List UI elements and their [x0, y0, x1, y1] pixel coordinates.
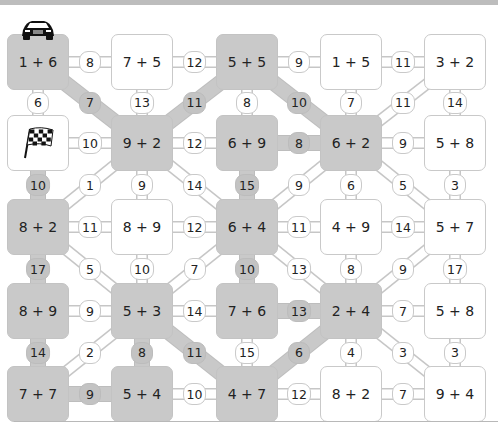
path-number[interactable]: 11 [183, 92, 207, 114]
path-number[interactable]: 7 [392, 300, 414, 322]
path-number[interactable]: 7 [79, 92, 101, 114]
path-number[interactable]: 14 [183, 174, 207, 196]
path-number[interactable]: 15 [235, 174, 259, 196]
equation-box[interactable]: 7 + 7 [7, 366, 69, 422]
equation-box[interactable]: 6 + 9 [216, 115, 278, 171]
path-number[interactable]: 2 [79, 342, 101, 364]
path-number[interactable]: 8 [131, 342, 153, 364]
path-number[interactable]: 14 [183, 300, 207, 322]
equation-label: 8 + 9 [19, 303, 57, 319]
equation-label: 9 + 4 [436, 386, 474, 402]
path-number[interactable]: 11 [183, 342, 207, 364]
path-number[interactable]: 10 [287, 92, 311, 114]
equation-box[interactable]: 7 + 6 [216, 283, 278, 339]
equation-box[interactable]: 6 + 4 [216, 199, 278, 255]
path-number[interactable]: 3 [392, 342, 414, 364]
path-number[interactable]: 10 [26, 174, 50, 196]
path-number[interactable]: 7 [392, 383, 414, 405]
path-number[interactable]: 13 [287, 258, 311, 280]
path-number[interactable]: 9 [79, 383, 101, 405]
path-number[interactable]: 3 [444, 174, 466, 196]
path-number[interactable]: 8 [340, 258, 362, 280]
equation-label: 8 + 2 [19, 219, 57, 235]
path-number[interactable]: 5 [79, 258, 101, 280]
equation-box[interactable]: 8 + 9 [7, 283, 69, 339]
equation-label: 7 + 5 [123, 54, 161, 70]
equation-label: 5 + 4 [123, 386, 161, 402]
equation-box[interactable]: 5 + 8 [424, 283, 486, 339]
equation-box[interactable]: 8 + 9 [111, 199, 173, 255]
equation-box[interactable]: 8 + 2 [320, 366, 382, 422]
equation-box[interactable]: 1 + 6 [7, 34, 69, 90]
equation-box[interactable]: 5 + 3 [111, 283, 173, 339]
path-number[interactable]: 9 [392, 258, 414, 280]
equation-box[interactable]: 3 + 2 [424, 34, 486, 90]
path-number[interactable]: 14 [391, 216, 415, 238]
equation-label: 5 + 7 [436, 219, 474, 235]
equation-label: 5 + 3 [123, 303, 161, 319]
path-number[interactable]: 11 [78, 216, 102, 238]
path-number[interactable]: 17 [443, 258, 467, 280]
equation-box[interactable]: 2 + 4 [320, 283, 382, 339]
path-number[interactable]: 7 [340, 92, 362, 114]
path-number[interactable]: 1 [79, 174, 101, 196]
path-number[interactable]: 10 [78, 132, 102, 154]
path-number[interactable]: 10 [130, 258, 154, 280]
path-number[interactable]: 9 [288, 51, 310, 73]
path-number[interactable]: 9 [131, 174, 153, 196]
path-number[interactable]: 8 [79, 51, 101, 73]
equation-box[interactable]: 5 + 7 [424, 199, 486, 255]
path-number[interactable]: 3 [444, 342, 466, 364]
equation-label: 3 + 2 [436, 54, 474, 70]
equation-label: 1 + 5 [332, 54, 370, 70]
path-number[interactable]: 12 [287, 383, 311, 405]
path-number[interactable]: 11 [287, 216, 311, 238]
path-number[interactable]: 14 [26, 342, 50, 364]
equation-box[interactable]: 5 + 5 [216, 34, 278, 90]
path-number[interactable]: 13 [287, 300, 311, 322]
path-number[interactable]: 7 [184, 258, 206, 280]
equation-box[interactable]: 7 + 5 [111, 34, 173, 90]
path-number[interactable]: 6 [288, 342, 310, 364]
checkered-flag-icon [21, 126, 55, 160]
path-number[interactable]: 13 [130, 92, 154, 114]
path-number[interactable]: 12 [183, 216, 207, 238]
path-number[interactable]: 6 [27, 92, 49, 114]
path-number[interactable]: 10 [235, 258, 259, 280]
race-car-icon [20, 18, 56, 40]
equation-label: 4 + 7 [228, 386, 266, 402]
equation-label: 6 + 2 [332, 135, 370, 151]
path-number[interactable]: 12 [183, 51, 207, 73]
equation-label: 2 + 4 [332, 303, 370, 319]
path-number[interactable]: 14 [443, 92, 467, 114]
path-number[interactable]: 12 [183, 132, 207, 154]
equation-box[interactable]: 8 + 2 [7, 199, 69, 255]
path-number[interactable]: 6 [340, 174, 362, 196]
equation-box[interactable]: 6 + 2 [320, 115, 382, 171]
equation-label: 4 + 9 [332, 219, 370, 235]
equation-box[interactable]: 5 + 4 [111, 366, 173, 422]
path-number[interactable]: 11 [391, 92, 415, 114]
equation-box[interactable]: 9 + 2 [111, 115, 173, 171]
path-number[interactable]: 5 [392, 174, 414, 196]
equation-box[interactable]: 5 + 8 [424, 115, 486, 171]
path-number[interactable]: 11 [391, 51, 415, 73]
path-number[interactable]: 17 [26, 258, 50, 280]
path-number[interactable]: 8 [288, 132, 310, 154]
path-number[interactable]: 8 [236, 92, 258, 114]
finish-box[interactable] [7, 115, 69, 171]
path-number[interactable]: 15 [235, 342, 259, 364]
equation-label: 7 + 6 [228, 303, 266, 319]
path-number[interactable]: 4 [340, 342, 362, 364]
path-number[interactable]: 9 [288, 174, 310, 196]
equation-box[interactable]: 4 + 9 [320, 199, 382, 255]
equation-label: 5 + 8 [436, 135, 474, 151]
path-number[interactable]: 9 [392, 132, 414, 154]
equation-box[interactable]: 4 + 7 [216, 366, 278, 422]
equation-box[interactable]: 9 + 4 [424, 366, 486, 422]
equation-label: 9 + 2 [123, 135, 161, 151]
path-number[interactable]: 10 [183, 383, 207, 405]
equation-label: 6 + 9 [228, 135, 266, 151]
equation-box[interactable]: 1 + 5 [320, 34, 382, 90]
path-number[interactable]: 9 [79, 300, 101, 322]
